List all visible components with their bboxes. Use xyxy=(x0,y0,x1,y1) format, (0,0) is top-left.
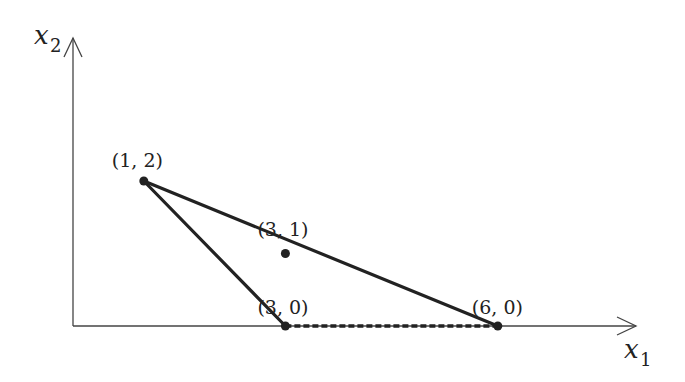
x-axis-label: x xyxy=(624,334,639,364)
x-axis-subscript: 1 xyxy=(640,349,651,370)
point-label-p30: (3, 0) xyxy=(257,296,308,318)
y-axis-label: x xyxy=(34,20,49,50)
lp-diagram: x 2 x 1 (1, 2)(3, 1)(3, 0)(6, 0) xyxy=(0,0,685,382)
point-label-p60: (6, 0) xyxy=(472,296,523,318)
edge-p12-p60 xyxy=(144,181,498,326)
point-p31 xyxy=(281,249,290,258)
point-p60 xyxy=(493,322,502,331)
point-label-p12: (1, 2) xyxy=(112,149,163,171)
point-label-p31: (3, 1) xyxy=(257,218,308,240)
y-axis-subscript: 2 xyxy=(50,35,61,56)
point-p30 xyxy=(281,322,290,331)
point-p12 xyxy=(139,177,148,186)
